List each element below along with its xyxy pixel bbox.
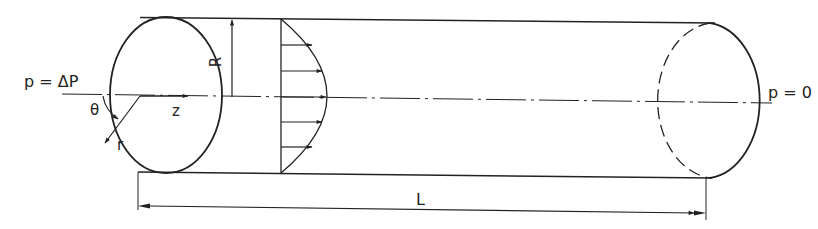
pipe-top-wall [140, 18, 715, 24]
pipe-flow-diagram: R z r θ p = ΔP p = 0 L [0, 0, 818, 229]
radius-label: R [207, 57, 225, 67]
parabolic-profile-curve [281, 19, 327, 173]
length-arrowhead-right [694, 211, 706, 216]
outlet-face-hidden-arc [658, 23, 710, 178]
pipe-bottom-wall [138, 172, 712, 178]
length-arrowhead-left [138, 204, 150, 209]
outlet-pressure-label: p = 0 [768, 83, 812, 102]
velocity-profile [281, 19, 327, 173]
outlet-face-solid-arc [710, 23, 760, 178]
outlet-face [658, 23, 760, 178]
z-axis-label: z [172, 102, 180, 120]
radius-dimension: R [207, 20, 232, 97]
inlet-pressure-label: p = ΔP [24, 72, 79, 91]
r-axis-label: r [117, 136, 124, 154]
length-label: L [416, 190, 425, 209]
pipe-body [138, 18, 715, 179]
theta-label: θ [90, 101, 99, 119]
